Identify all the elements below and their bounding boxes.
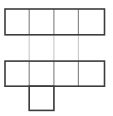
- top-face-4-fill: [78, 9, 104, 35]
- top-face-1-fill: [5, 9, 29, 35]
- middle-face-2-fill: [29, 61, 54, 86]
- bottom-face-1-fill: [29, 86, 54, 110]
- cube-net-svg: [0, 0, 113, 116]
- cube-net-figure: [0, 0, 113, 116]
- face-fill-layer: [5, 9, 105, 110]
- middle-face-3-fill: [54, 61, 79, 86]
- middle-face-1-fill: [5, 61, 29, 86]
- middle-face-4-fill: [78, 61, 104, 86]
- top-face-2-fill: [29, 9, 54, 35]
- top-face-3-fill: [54, 9, 79, 35]
